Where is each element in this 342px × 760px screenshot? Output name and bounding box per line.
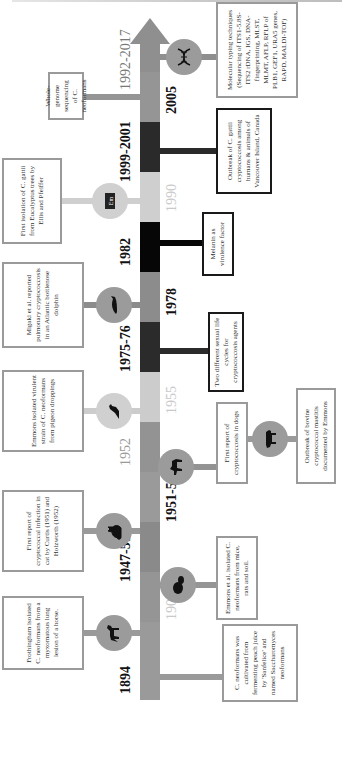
event-box-1947-51-cat: First report of cryptococcal infection i… (2, 490, 84, 572)
event-box-1952-dog: First report of cryptococcosis in dogs (216, 402, 248, 484)
axis-segment-1951-52 (140, 472, 160, 522)
year-label-1999-2001: 1999-2001 (118, 121, 134, 182)
dna-icon (172, 45, 196, 69)
event-box-bovine-mastitis: Outbreak of bovine cryptococcal mastitis… (296, 388, 336, 484)
svg-text:Em: Em (108, 197, 114, 206)
year-label-1982: 1982 (118, 238, 134, 266)
year-label-1952: 1952 (118, 438, 134, 466)
event-icon-cat (96, 513, 132, 549)
event-box-1990-eucalyptus: First isolation of C. gattii from Eucaly… (2, 158, 62, 244)
event-icon-pigeon (96, 393, 132, 429)
axis-segment-1894 (140, 622, 160, 700)
axis-segment-1999-2001 (140, 122, 160, 172)
axis-segment-1992-2017 (140, 42, 160, 72)
axis-segment-1947-51 (140, 522, 160, 572)
book-icon: Em (98, 189, 122, 213)
year-label-1992-2017: 1992-2017 (118, 29, 134, 90)
year-label-1955: 1955 (164, 386, 180, 414)
axis-segment-1978 (140, 272, 160, 322)
timeline-arrowhead (130, 18, 170, 44)
event-icon-rodent (160, 567, 196, 603)
axis-segment-1902 (140, 572, 160, 622)
axis-segment-1952 (140, 422, 160, 472)
event-icon-book: Em (92, 183, 128, 219)
axis-segment-1975-76 (140, 322, 160, 372)
event-box-1894-horse: Frothingham isolated C. neoformans from … (2, 596, 84, 670)
axis-segment-1982 (140, 222, 160, 272)
stem-sanfelice (160, 674, 222, 680)
stem-melanin (160, 240, 202, 246)
horse-icon (102, 621, 126, 645)
year-label-1894: 1894 (118, 666, 134, 694)
year-label-1978: 1978 (164, 288, 180, 316)
event-icon-dolphin (96, 287, 132, 323)
timeline-diagram: 1894 1947-51 1952 1975-76 1982 1999-2001… (0, 0, 342, 760)
stem-life-cycles (160, 348, 208, 354)
event-box-1975-76-life-cycles: Two different sexual life cycles for cry… (208, 312, 244, 392)
stem-genome (84, 94, 140, 100)
event-icon-dog (158, 449, 194, 485)
pigeon-icon (102, 399, 126, 423)
year-label-1990: 1990 (164, 184, 180, 212)
year-label-2005: 2005 (164, 86, 180, 114)
rodent-icon (166, 573, 190, 597)
event-box-1992-2017-molecular-typing: Molecular typing techniques (Sequencing … (216, 2, 298, 98)
event-box-1978-dolphin: Migaki et al. reported pulmonary cryptoc… (2, 262, 84, 348)
stem-vancouver (160, 148, 218, 154)
axis-segment-2005 (140, 72, 160, 122)
event-icon-horse (96, 615, 132, 651)
dog-icon (164, 455, 188, 479)
event-box-1999-2001-vancouver: Outbreak of C. gattii cryptococcosis amo… (216, 108, 272, 194)
cow-icon (258, 427, 282, 451)
event-box-1894-sanfelice: C. neoformans was cultivated from fermen… (222, 624, 298, 702)
event-box-1982-melanin: Melanin as virulence factor (202, 212, 234, 276)
event-icon-cow (252, 421, 288, 457)
cat-icon (102, 519, 126, 543)
event-box-2005-genome: Whole-genome sequencing of C. neoformans (48, 72, 84, 120)
event-icon-dna (166, 39, 202, 75)
event-box-1951-52-rodents: Emmons et al. isolated C. neoformans fro… (216, 536, 258, 620)
year-label-1975-76: 1975-76 (118, 325, 134, 372)
event-box-1955-pigeon: Emmons isolated virulent strain of C. ne… (2, 370, 84, 452)
dolphin-icon (102, 293, 126, 317)
axis-segment-1955 (140, 372, 160, 422)
axis-segment-1990 (140, 172, 160, 222)
